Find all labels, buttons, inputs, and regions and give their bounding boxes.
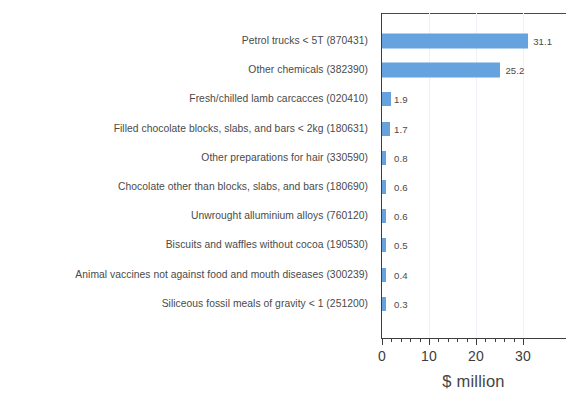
bar-value-label: 0.3	[394, 298, 408, 309]
bar-row: 1.7	[382, 116, 566, 142]
category-label: Siliceous fossil meals of gravity < 1 (2…	[0, 298, 368, 310]
category-label: Other preparations for hair (330590)	[0, 152, 368, 164]
category-label: Filled chocolate blocks, slabs, and bars…	[0, 123, 368, 135]
bar-value-label: 0.4	[394, 269, 408, 280]
x-tick-label: 30	[515, 348, 531, 364]
bar	[382, 180, 386, 194]
minor-tick	[420, 338, 421, 342]
major-tick	[382, 338, 383, 345]
minor-tick	[457, 338, 458, 342]
bar	[382, 34, 528, 49]
bar-value-label: 31.1	[533, 36, 552, 47]
bar-row: 0.3	[382, 291, 566, 317]
category-label: Chocolate other than blocks, slabs, and …	[0, 181, 368, 193]
major-tick	[476, 338, 477, 345]
major-tick	[429, 338, 430, 345]
minor-tick	[391, 338, 392, 342]
x-tick-label: 20	[468, 348, 484, 364]
bar	[382, 268, 386, 282]
bar-chart: Petrol trucks < 5T (870431)Other chemica…	[0, 0, 566, 402]
bar-row: 0.6	[382, 203, 566, 229]
minor-tick	[485, 338, 486, 342]
minor-tick	[514, 338, 515, 342]
x-tick-label: 10	[421, 348, 437, 364]
x-axis-line	[381, 338, 566, 339]
bar-row: 31.1	[382, 28, 566, 54]
bar-row: 0.6	[382, 174, 566, 200]
category-label-column: Petrol trucks < 5T (870431)Other chemica…	[0, 26, 376, 318]
bar-value-label: 0.6	[394, 182, 408, 193]
minor-tick	[504, 338, 505, 342]
category-label: Unwrought alluminium alloys (760120)	[0, 210, 368, 222]
minor-tick	[467, 338, 468, 342]
bar	[382, 151, 386, 165]
bar-value-label: 1.7	[394, 123, 408, 134]
category-label: Animal vaccines not against food and mou…	[0, 269, 368, 281]
major-tick	[523, 338, 524, 345]
bar-row: 1.9	[382, 86, 566, 112]
x-axis: $ million 0102030	[381, 338, 566, 402]
bar-value-label: 0.6	[394, 211, 408, 222]
bar	[382, 297, 386, 311]
minor-tick	[410, 338, 411, 342]
category-label: Fresh/chilled lamb carcacces (020410)	[0, 93, 368, 105]
bar	[382, 122, 390, 136]
category-label: Other chemicals (382390)	[0, 64, 368, 76]
bars-layer: 31.125.21.91.70.80.60.60.50.40.3	[382, 13, 566, 338]
category-label: Biscuits and waffles without cocoa (1905…	[0, 239, 368, 251]
x-axis-title: $ million	[381, 372, 566, 391]
bar	[382, 92, 391, 106]
category-label: Petrol trucks < 5T (870431)	[0, 35, 368, 47]
minor-tick	[401, 338, 402, 342]
bar-row: 0.4	[382, 262, 566, 288]
bar-value-label: 1.9	[394, 94, 408, 105]
bar-row: 25.2	[382, 57, 566, 83]
minor-tick	[438, 338, 439, 342]
bar-row: 0.5	[382, 232, 566, 258]
bar	[382, 209, 386, 223]
minor-tick	[495, 338, 496, 342]
bar-value-label: 25.2	[505, 65, 524, 76]
bar-value-label: 0.8	[394, 152, 408, 163]
bar	[382, 63, 500, 78]
bar-value-label: 0.5	[394, 240, 408, 251]
minor-tick	[448, 338, 449, 342]
x-tick-label: 0	[378, 348, 386, 364]
bar	[382, 238, 386, 252]
bar-row: 0.8	[382, 145, 566, 171]
